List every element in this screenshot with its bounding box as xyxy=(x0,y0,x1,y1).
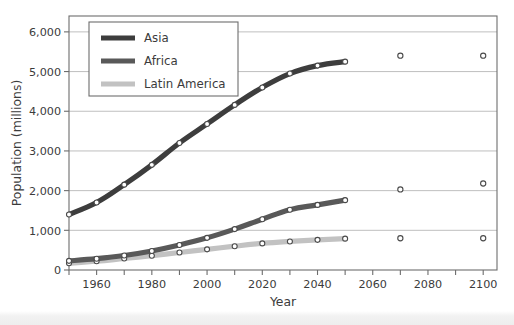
projection-point-marker xyxy=(398,236,403,241)
projection-point-marker xyxy=(481,236,486,241)
data-point-marker xyxy=(260,85,265,90)
projection-point-marker xyxy=(398,187,403,192)
legend: AsiaAfricaLatin America xyxy=(89,22,238,96)
data-point-marker xyxy=(287,207,292,212)
data-point-marker xyxy=(205,121,210,126)
y-tick-label: 2,000 xyxy=(29,185,61,198)
x-tick-label: 1960 xyxy=(82,278,110,291)
data-point-marker xyxy=(343,59,348,64)
x-axis-ticks: 19601980200020202040206020802100 xyxy=(69,270,497,291)
legend-label: Latin America xyxy=(144,77,226,91)
y-axis-ticks: 01,0002,0003,0004,0005,0006,000 xyxy=(29,26,69,277)
y-tick-label: 6,000 xyxy=(29,26,61,39)
x-tick-label: 1980 xyxy=(138,278,166,291)
x-tick-label: 2080 xyxy=(414,278,442,291)
y-axis-label: Population (millions) xyxy=(9,80,24,206)
data-point-marker xyxy=(149,162,154,167)
data-point-marker xyxy=(232,102,237,107)
data-point-marker xyxy=(343,236,348,241)
data-point-marker xyxy=(94,256,99,261)
data-point-marker xyxy=(122,182,127,187)
markers-africa xyxy=(67,181,486,263)
figure-bottom-band xyxy=(0,311,514,325)
x-tick-label: 2060 xyxy=(358,278,386,291)
projection-point-marker xyxy=(481,53,486,58)
projection-point-marker xyxy=(398,53,403,58)
data-point-marker xyxy=(343,198,348,203)
data-point-marker xyxy=(260,217,265,222)
y-tick-label: 4,000 xyxy=(29,105,61,118)
x-tick-label: 2100 xyxy=(469,278,497,291)
data-point-marker xyxy=(315,202,320,207)
legend-label: Asia xyxy=(144,31,169,45)
data-point-marker xyxy=(149,248,154,253)
data-point-marker xyxy=(205,235,210,240)
data-point-marker xyxy=(177,242,182,247)
data-point-marker xyxy=(67,258,72,263)
y-tick-label: 0 xyxy=(54,264,61,277)
data-point-marker xyxy=(94,200,99,205)
data-point-marker xyxy=(232,227,237,232)
data-point-marker xyxy=(287,71,292,76)
population-projection-figure: 01,0002,0003,0004,0005,0006,000196019802… xyxy=(0,0,514,325)
data-point-marker xyxy=(67,212,72,217)
data-point-marker xyxy=(315,237,320,242)
y-tick-label: 5,000 xyxy=(29,66,61,79)
x-tick-label: 2020 xyxy=(248,278,276,291)
data-point-marker xyxy=(205,247,210,252)
legend-label: Africa xyxy=(144,54,178,68)
x-tick-label: 2040 xyxy=(303,278,331,291)
x-axis-label: Year xyxy=(269,294,297,309)
data-point-marker xyxy=(260,241,265,246)
projection-point-marker xyxy=(481,181,486,186)
line-chart: 01,0002,0003,0004,0005,0006,000196019802… xyxy=(0,0,514,325)
x-tick-label: 2000 xyxy=(193,278,221,291)
data-point-marker xyxy=(177,141,182,146)
y-tick-label: 1,000 xyxy=(29,225,61,238)
data-point-marker xyxy=(315,63,320,68)
data-point-marker xyxy=(122,253,127,258)
data-point-marker xyxy=(287,239,292,244)
data-point-marker xyxy=(232,244,237,249)
data-point-marker xyxy=(177,250,182,255)
y-tick-label: 3,000 xyxy=(29,145,61,158)
